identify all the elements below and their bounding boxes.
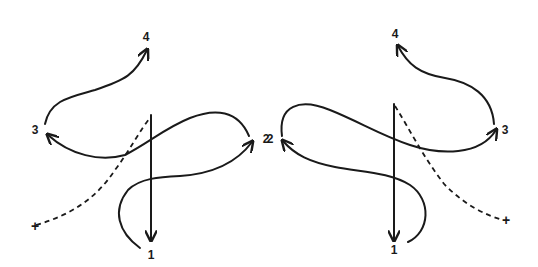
right-path-1-to-2 — [283, 141, 426, 242]
right-path-3-to-4 — [398, 46, 494, 124]
left-label-1: 1 — [148, 249, 155, 261]
left-path-1-to-2 — [119, 142, 252, 248]
left-label-3: 3 — [32, 124, 39, 136]
right-label-3: 3 — [502, 124, 509, 136]
left-figure — [36, 50, 252, 248]
right-start-marker: + — [502, 213, 510, 227]
left-path-3-to-4 — [45, 50, 147, 124]
left-label-4: 4 — [143, 31, 150, 43]
left-start-marker: + — [31, 219, 39, 233]
right-label-2: 2 — [267, 133, 274, 145]
right-figure — [282, 46, 503, 242]
right-dashed-start-path — [395, 106, 503, 220]
left-path-2-to-3 — [48, 112, 249, 157]
right-path-2-to-3 — [282, 104, 496, 151]
right-label-1: 1 — [391, 244, 398, 256]
left-dashed-start-path — [36, 118, 150, 225]
right-label-4: 4 — [392, 28, 399, 40]
